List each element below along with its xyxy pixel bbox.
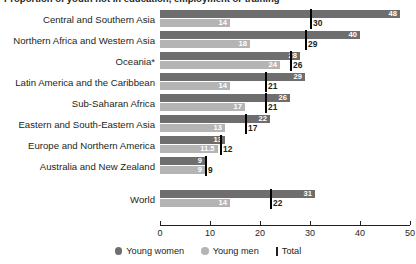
total-marker-icon <box>265 72 267 92</box>
total-marker-icon <box>205 156 207 176</box>
row-label-sub-saharan-africa: Sub-Saharan Africa <box>0 93 155 114</box>
row-label-central-and-southern-asia: Central and Southern Asia <box>0 9 155 30</box>
row-bars: 1311.512 <box>160 136 410 155</box>
total-value-label: 12 <box>223 145 232 154</box>
total-value-label: 21 <box>268 82 277 91</box>
row-label-australia-and-new-zealand: Australia and New Zealand <box>0 156 155 177</box>
bar-value-young-men: 14 <box>219 19 227 27</box>
axis-tick <box>260 221 261 225</box>
total-value-label: 22 <box>273 199 282 208</box>
row-label-oceania: Oceania* <box>0 51 155 72</box>
bar-value-young-women: 9 <box>198 157 202 165</box>
total-value-label: 29 <box>308 40 317 49</box>
bar-young-women: 40 <box>160 31 360 39</box>
chart-container: Proportion of youth not in education, em… <box>0 0 416 264</box>
row-bars: 221317 <box>160 115 410 134</box>
bar-value-young-men: 17 <box>234 103 242 111</box>
axis-tick <box>360 221 361 225</box>
axis-tick-label: 0 <box>157 228 162 238</box>
bar-value-young-women: 48 <box>389 10 397 18</box>
bar-value-young-women: 31 <box>304 190 312 198</box>
row-label-eastern-and-south-eastern-asia: Eastern and South-Eastern Asia <box>0 114 155 135</box>
chart-title-strip: Proportion of youth not in education, em… <box>0 0 416 9</box>
total-marker-icon <box>270 189 272 209</box>
bar-value-young-men: 9 <box>198 166 202 174</box>
bar-young-women: 22 <box>160 115 270 123</box>
x-axis: 01020304050 <box>160 225 410 226</box>
legend-label-young-men: Young men <box>213 246 259 256</box>
bar-young-men: 13 <box>160 124 225 132</box>
chart-row: Eastern and South-Eastern Asia221317 <box>0 114 416 135</box>
bar-young-men: 11.5 <box>160 145 218 153</box>
bar-young-men: 18 <box>160 40 250 48</box>
legend-swatch-total-icon <box>276 247 278 256</box>
chart-row: Latin America and the Caribbean291421 <box>0 72 416 93</box>
chart-row: Northern Africa and Western Asia401829 <box>0 30 416 51</box>
axis-tick <box>210 221 211 225</box>
row-bars: 481430 <box>160 10 410 29</box>
page-title: Proportion of youth not in education, em… <box>4 0 280 4</box>
row-bars: 261721 <box>160 94 410 113</box>
axis-tick-label: 10 <box>205 228 215 238</box>
chart-row: Sub-Saharan Africa261721 <box>0 93 416 114</box>
axis-tick-label: 40 <box>355 228 365 238</box>
bar-young-men: 14 <box>160 199 230 207</box>
row-bars: 282426 <box>160 52 410 71</box>
axis-tick <box>160 221 161 225</box>
total-marker-icon <box>245 114 247 134</box>
bar-value-young-men: 18 <box>239 40 247 48</box>
total-value-label: 26 <box>293 61 302 70</box>
bar-value-young-women: 26 <box>279 94 287 102</box>
chart-row: Australia and New Zealand999 <box>0 156 416 177</box>
bar-value-young-men: 13 <box>214 124 222 132</box>
row-bars: 401829 <box>160 31 410 50</box>
bar-young-women: 13 <box>160 136 225 144</box>
row-label-northern-africa-and-western-asia: Northern Africa and Western Asia <box>0 30 155 51</box>
bar-value-young-women: 22 <box>259 115 267 123</box>
total-value-label: 30 <box>313 19 322 28</box>
bar-young-men: 9 <box>160 166 205 174</box>
bar-value-young-men: 24 <box>269 61 277 69</box>
row-label-latin-america-and-the-caribbean: Latin America and the Caribbean <box>0 72 155 93</box>
legend-item-young-women: Young women <box>115 246 184 256</box>
bar-young-men: 14 <box>160 82 230 90</box>
axis-tick <box>310 221 311 225</box>
bar-value-young-women: 29 <box>294 73 302 81</box>
total-marker-icon <box>265 93 267 113</box>
total-value-label: 21 <box>268 103 277 112</box>
total-marker-icon <box>290 51 292 71</box>
legend-item-young-men: Young men <box>201 246 259 256</box>
chart-legend: Young women Young men Total <box>0 243 416 259</box>
total-marker-icon <box>220 135 222 155</box>
total-value-label: 9 <box>208 166 213 175</box>
row-label-world: World <box>0 189 155 210</box>
bar-young-women: 31 <box>160 190 315 198</box>
bar-value-young-men: 14 <box>219 82 227 90</box>
bar-young-men: 14 <box>160 19 230 27</box>
bar-value-young-men: 14 <box>219 199 227 207</box>
total-marker-icon <box>310 9 312 29</box>
axis-tick-label: 30 <box>305 228 315 238</box>
bar-young-women: 28 <box>160 52 300 60</box>
row-label-europe-and-northern-america: Europe and Northern America <box>0 135 155 156</box>
row-bars: 311422 <box>160 190 410 209</box>
bar-young-women: 48 <box>160 10 400 18</box>
plot-area: Central and Southern Asia481430Northern … <box>0 9 416 225</box>
bar-young-women: 29 <box>160 73 305 81</box>
chart-row: World311422 <box>0 189 416 210</box>
bar-young-men: 17 <box>160 103 245 111</box>
bar-young-men: 24 <box>160 61 280 69</box>
chart-row: Europe and Northern America1311.512 <box>0 135 416 156</box>
chart-row: Oceania*282426 <box>0 51 416 72</box>
bar-value-young-women: 40 <box>349 31 357 39</box>
total-value-label: 17 <box>248 124 257 133</box>
bar-young-women: 26 <box>160 94 290 102</box>
legend-swatch-young-women-icon <box>115 247 123 255</box>
axis-tick-label: 20 <box>255 228 265 238</box>
legend-label-total: Total <box>282 246 301 256</box>
chart-row: Central and Southern Asia481430 <box>0 9 416 30</box>
axis-tick-label: 50 <box>405 228 415 238</box>
bar-young-women: 9 <box>160 157 205 165</box>
row-bars: 291421 <box>160 73 410 92</box>
legend-label-young-women: Young women <box>126 246 184 256</box>
